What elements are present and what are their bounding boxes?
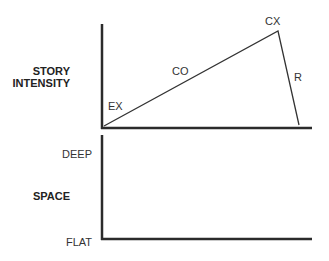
space-label: SPACE xyxy=(33,190,70,202)
space-tick-flat: FLAT xyxy=(66,236,92,248)
segment-label-co: CO xyxy=(172,65,189,77)
diagram-canvas xyxy=(0,0,329,261)
segment-label-ex: EX xyxy=(108,100,123,112)
story-intensity-line xyxy=(104,31,299,126)
story-label-line2: INTENSITY xyxy=(13,77,70,89)
space-tick-deep: DEEP xyxy=(62,148,92,160)
segment-label-cx: CX xyxy=(265,15,280,27)
segment-label-r: R xyxy=(294,71,302,83)
story-label-line1: STORY xyxy=(33,65,70,77)
